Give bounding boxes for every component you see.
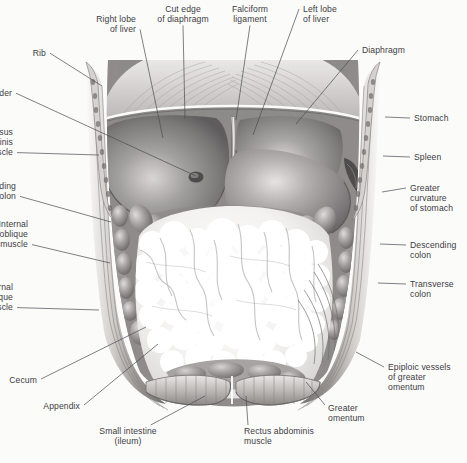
label-transversus-abdominis: Transversus abdominis muscle bbox=[0, 127, 13, 158]
label-greater-curvature: Greater curvature of stomach bbox=[410, 183, 453, 214]
label-epiploic-vessels: Epiploic vessels of greater omentum bbox=[388, 362, 451, 393]
label-falciform-ligament: Falciform ligament bbox=[232, 4, 268, 24]
label-cecum: Cecum bbox=[9, 375, 37, 385]
anatomical-illustration bbox=[0, 0, 467, 463]
label-gallbladder: Gallbladder bbox=[0, 88, 12, 98]
label-transverse-colon: Transverse colon bbox=[410, 279, 454, 299]
label-diaphragm: Diaphragm bbox=[362, 45, 405, 55]
label-stomach: Stomach bbox=[414, 113, 449, 123]
label-appendix: Appendix bbox=[43, 401, 80, 411]
label-greater-omentum: Greater omentum bbox=[328, 403, 365, 423]
label-spleen: Spleen bbox=[414, 152, 441, 162]
label-ascending-colon: Ascending colon bbox=[0, 181, 16, 201]
label-small-intestine-ileum: Small intestine (ileum) bbox=[99, 426, 156, 446]
label-internal-oblique: Internal oblique muscle bbox=[0, 219, 28, 250]
label-rectus-abdominis: Rectus abdominis muscle bbox=[244, 426, 314, 446]
label-descending-colon: Descending colon bbox=[410, 240, 456, 260]
label-rib: Rib bbox=[33, 48, 46, 58]
rectus-abdominis bbox=[146, 375, 320, 405]
anatomy-figure: Right lobe of liverCut edge of diaphragm… bbox=[0, 0, 467, 463]
label-external-oblique: External oblique muscle bbox=[0, 282, 13, 313]
label-cut-edge-of-diaphragm: Cut edge of diaphragm bbox=[157, 4, 208, 24]
label-right-lobe-of-liver: Right lobe of liver bbox=[96, 14, 136, 34]
label-left-lobe-of-liver: Left lobe of liver bbox=[303, 4, 337, 24]
